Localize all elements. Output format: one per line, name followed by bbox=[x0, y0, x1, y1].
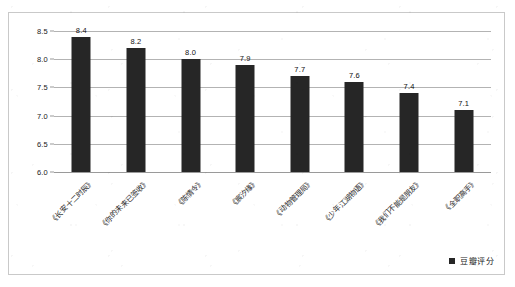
y-axis-tick-mark bbox=[50, 172, 54, 173]
bar[interactable] bbox=[236, 65, 255, 172]
y-axis-tick-mark bbox=[50, 87, 54, 88]
y-axis-tick-label: 7.0 bbox=[37, 111, 48, 120]
y-axis-tick-label: 7.5 bbox=[37, 83, 48, 92]
y-axis-tick-label: 6.5 bbox=[37, 139, 48, 148]
y-axis-tick-label: 6.0 bbox=[37, 168, 48, 177]
bar[interactable] bbox=[181, 59, 200, 172]
x-axis-category-label: 《宸汐缘》 bbox=[226, 176, 260, 210]
bar[interactable] bbox=[454, 110, 473, 172]
x-axis-category-label: 《陈情令》 bbox=[172, 176, 206, 210]
gridline bbox=[54, 59, 491, 60]
gridline bbox=[54, 31, 491, 32]
y-axis-tick-label: 8.5 bbox=[37, 27, 48, 36]
y-axis-tick-mark bbox=[50, 115, 54, 116]
bar-value-label: 8.2 bbox=[130, 37, 141, 46]
bar[interactable] bbox=[345, 82, 364, 172]
bar[interactable] bbox=[72, 37, 91, 172]
x-axis-category-label: 《少年江湖物语》 bbox=[320, 176, 369, 225]
bar-value-label: 8.4 bbox=[76, 26, 87, 35]
gridline bbox=[54, 144, 491, 145]
bar-value-label: 7.4 bbox=[404, 82, 415, 91]
bar-value-label: 7.1 bbox=[458, 99, 469, 108]
x-axis-category-label: 《全职高手》 bbox=[440, 176, 479, 215]
gridline bbox=[54, 172, 491, 173]
bar[interactable] bbox=[400, 93, 419, 172]
bar-value-label: 7.9 bbox=[240, 54, 251, 63]
x-axis-category-label: 《你的未来已签收》 bbox=[96, 176, 150, 230]
bar-value-label: 7.7 bbox=[294, 65, 305, 74]
plot-area: 6.06.57.07.58.08.58.48.28.07.97.77.67.47… bbox=[54, 31, 491, 172]
x-axis-category-label: 《我们不能是朋友》 bbox=[370, 176, 424, 230]
legend-label: 豆瓣评分 bbox=[460, 255, 494, 266]
chart-legend: 豆瓣评分 bbox=[449, 255, 494, 266]
bar[interactable] bbox=[290, 76, 309, 172]
gridline bbox=[54, 87, 491, 88]
bar-value-label: 8.0 bbox=[185, 48, 196, 57]
gridline bbox=[54, 116, 491, 117]
x-axis-category-label: 《长安十二时辰》 bbox=[47, 176, 96, 225]
x-axis-category-label: 《动物管理局》 bbox=[271, 176, 315, 220]
y-axis-tick-mark bbox=[50, 143, 54, 144]
bar[interactable] bbox=[126, 48, 145, 172]
legend-swatch-icon bbox=[449, 258, 455, 264]
y-axis-tick-label: 8.0 bbox=[37, 55, 48, 64]
y-axis-tick-mark bbox=[50, 31, 54, 32]
bar-value-label: 7.6 bbox=[349, 71, 360, 80]
y-axis-tick-mark bbox=[50, 59, 54, 60]
chart-frame: 6.06.57.07.58.08.58.48.28.07.97.77.67.47… bbox=[8, 12, 505, 275]
